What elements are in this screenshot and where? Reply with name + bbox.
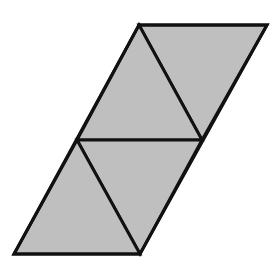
triangle-group bbox=[14, 25, 267, 254]
tetrahedron-net-diagram bbox=[0, 0, 275, 271]
